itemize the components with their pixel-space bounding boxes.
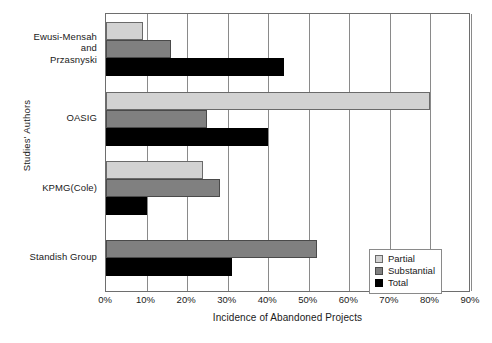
x-tick-label-30%: 30%: [207, 294, 247, 305]
bar-substantial-1: [106, 40, 171, 58]
legend-swatch-total-icon: [375, 279, 383, 287]
x-tick-label-40%: 40%: [247, 294, 287, 305]
legend-label: Partial: [388, 253, 415, 265]
x-tick-label-10%: 10%: [126, 294, 166, 305]
y-axis-label-1: Ewusi-MensahandPrzasnyski: [0, 31, 97, 66]
y-axis-label-line: Standish Group: [0, 251, 97, 263]
x-tick-label-90%: 90%: [450, 294, 490, 305]
legend-label: Substantial: [388, 265, 435, 277]
x-tick-label-20%: 20%: [166, 294, 206, 305]
x-tick-label-60%: 60%: [328, 294, 368, 305]
x-tick-label-0%: 0%: [85, 294, 125, 305]
bar-total-3: [106, 197, 147, 215]
y-axis-label-line: and: [0, 42, 97, 54]
bar-total-2: [106, 128, 268, 146]
y-axis-label-4: Standish Group: [0, 251, 97, 263]
bar-partial-1: [106, 22, 143, 40]
bar-chart: Studies' Authors Ewusi-MensahandPrzasnys…: [0, 0, 492, 343]
legend-swatch-substantial-icon: [375, 267, 383, 275]
y-axis-label-line: Przasnyski: [0, 54, 97, 66]
bar-substantial-2: [106, 110, 207, 128]
gridline-90%: [471, 14, 472, 291]
x-axis-title: Incidence of Abandoned Projects: [105, 312, 470, 323]
legend-label: Total: [388, 277, 408, 289]
bar-partial-3: [106, 161, 203, 179]
legend-item-total: Total: [375, 277, 435, 289]
bar-partial-2: [106, 92, 430, 110]
bar-substantial-3: [106, 179, 220, 197]
legend-item-substantial: Substantial: [375, 265, 435, 277]
y-axis-label-2: OASIG: [0, 112, 97, 124]
bar-substantial-4: [106, 240, 317, 258]
legend-item-partial: Partial: [375, 253, 435, 265]
legend-swatch-partial-icon: [375, 255, 383, 263]
x-tick-label-80%: 80%: [409, 294, 449, 305]
x-tick-label-50%: 50%: [288, 294, 328, 305]
y-axis-label-line: OASIG: [0, 112, 97, 124]
bar-total-4: [106, 258, 232, 276]
chart-legend: PartialSubstantialTotal: [369, 249, 442, 294]
y-axis-label-line: KPMG(Cole): [0, 182, 97, 194]
y-axis-label-line: Ewusi-Mensah: [0, 31, 97, 43]
y-axis-category-labels: Ewusi-MensahandPrzasnyskiOASIGKPMG(Cole)…: [0, 13, 100, 292]
x-axis-ticks: 0%10%20%30%40%50%60%70%80%90%: [105, 294, 470, 310]
x-tick-label-70%: 70%: [369, 294, 409, 305]
bar-total-1: [106, 58, 284, 76]
y-axis-label-3: KPMG(Cole): [0, 182, 97, 194]
